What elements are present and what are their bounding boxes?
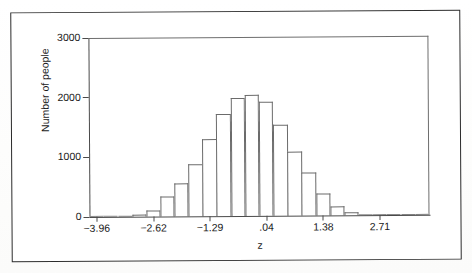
x-axis-tick-label: −1.29	[187, 221, 233, 233]
histogram-bar	[330, 206, 344, 215]
histogram-bar	[174, 184, 188, 217]
histogram-bar	[302, 173, 316, 216]
y-axis-tick-label: 0	[41, 210, 81, 222]
x-axis-tick-label: −3.96	[74, 222, 120, 234]
histogram-bar	[202, 139, 217, 216]
histogram-bar	[273, 125, 288, 216]
scanned-figure-root: Number of people 0100020003000 −3.96−2.6…	[0, 0, 472, 273]
histogram-bar	[259, 102, 274, 216]
histogram-bar	[287, 152, 302, 216]
x-axis-tick-label: 1.38	[300, 220, 346, 232]
histogram-bar	[189, 164, 203, 217]
x-axis-tick-label: −2.62	[131, 221, 177, 233]
histogram-bar	[216, 114, 231, 216]
chart-area: Number of people 0100020003000 −3.96−2.6…	[10, 10, 462, 263]
histogram-bar	[316, 193, 330, 215]
histogram-bar	[160, 196, 174, 216]
y-axis-tick-label: 3000	[40, 31, 80, 43]
x-axis-title: z	[90, 238, 431, 252]
histogram-bar	[231, 98, 246, 216]
histogram-bars	[88, 36, 429, 217]
y-axis-tick-label: 2000	[41, 91, 81, 103]
x-axis-tick-label: .04	[244, 221, 290, 233]
histogram-bar	[245, 94, 260, 215]
x-axis-tick-label: 2.71	[357, 220, 403, 232]
y-axis-tick-label: 1000	[41, 150, 81, 162]
